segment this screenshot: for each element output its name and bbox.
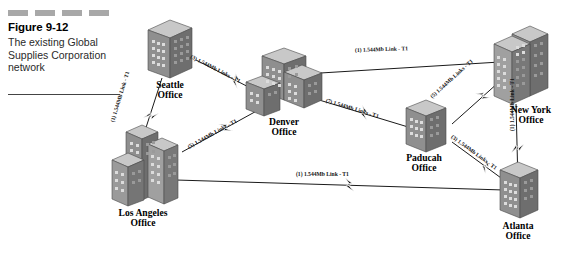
node-label-denver-line2: Office xyxy=(269,127,299,137)
node-label-newyork: New York Office xyxy=(511,105,551,126)
network-diagram: Seattle Office Denver Office New York Of… xyxy=(0,0,574,256)
node-label-seattle-line2: Office xyxy=(156,90,184,100)
node-label-newyork-line2: Office xyxy=(511,115,551,125)
node-label-paducah-line2: Office xyxy=(406,163,442,173)
link-label-newyork-atlanta: (1) 1.544Mb Link - T1 xyxy=(509,78,515,131)
node-label-denver: Denver Office xyxy=(269,117,299,138)
node-label-paducah: Paducah Office xyxy=(406,153,442,174)
node-label-losangeles-line2: Office xyxy=(119,218,168,228)
building-atlanta xyxy=(500,162,538,218)
building-denver xyxy=(246,48,322,116)
node-label-atlanta: Atlanta Office xyxy=(503,221,534,242)
link-label-losangeles-atlanta: (1) 1.544Mb Link - T1 xyxy=(296,171,349,177)
bolt-losangeles-atlanta xyxy=(345,178,354,191)
building-seattle xyxy=(148,20,192,78)
node-label-seattle: Seattle Office xyxy=(156,80,184,101)
figure-container: Figure 9-12 The existing Global Supplies… xyxy=(0,0,574,256)
line-losangeles-atlanta xyxy=(176,180,504,190)
node-label-atlanta-line2: Office xyxy=(503,231,534,241)
building-newyork xyxy=(494,26,548,104)
building-losangeles xyxy=(112,125,178,206)
building-paducah xyxy=(406,100,446,152)
node-label-losangeles: Los Angeles Office xyxy=(119,208,168,229)
